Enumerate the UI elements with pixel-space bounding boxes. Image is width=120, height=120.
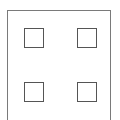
square-bottom-left	[24, 82, 44, 102]
square-top-right	[77, 28, 97, 48]
square-top-left	[24, 28, 44, 48]
outer-frame	[7, 10, 111, 120]
square-bottom-right	[77, 82, 97, 102]
